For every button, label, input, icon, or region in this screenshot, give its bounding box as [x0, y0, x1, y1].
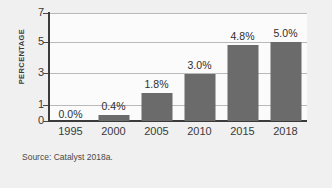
- y-tick-label-1: 1: [26, 99, 44, 110]
- y-tick-mark-5: [43, 42, 48, 43]
- y-tick-label-3: 3: [26, 67, 44, 78]
- y-tick-label-5: 5: [26, 36, 44, 47]
- bar-2015[interactable]: [227, 45, 258, 121]
- y-tick-mark-3: [43, 73, 48, 74]
- bar-slot-2000: 0.4%: [92, 13, 135, 121]
- y-tick-mark-0: [43, 121, 48, 122]
- x-label-1995: 1995: [49, 126, 92, 137]
- chart-figure: PERCENTAGE 7 5 3 1 0 0.0% 0.4% 1.8% 3.0%…: [0, 0, 332, 188]
- bar-slot-1995: 0.0%: [49, 13, 92, 121]
- bar-value-1995: 0.0%: [59, 109, 83, 120]
- bar-2010[interactable]: [184, 74, 215, 121]
- bar-value-2015: 4.8%: [231, 31, 255, 42]
- bar-slot-2018: 5.0%: [264, 13, 307, 121]
- bar-2018[interactable]: [270, 42, 301, 121]
- x-label-2000: 2000: [92, 126, 135, 137]
- bar-value-2010: 3.0%: [188, 60, 212, 71]
- bar-value-2018: 5.0%: [274, 28, 298, 39]
- y-tick-mark-7: [43, 13, 48, 14]
- bar-2005[interactable]: [141, 93, 172, 121]
- y-tick-label-0: 0: [26, 115, 44, 126]
- bar-slot-2015: 4.8%: [221, 13, 264, 121]
- x-label-2015: 2015: [221, 126, 264, 137]
- source-note: Source: Catalyst 2018a.: [22, 152, 113, 162]
- bar-value-2005: 1.8%: [145, 79, 169, 90]
- y-tick-label-7: 7: [26, 7, 44, 18]
- x-label-2005: 2005: [135, 126, 178, 137]
- x-label-2010: 2010: [178, 126, 221, 137]
- y-tick-mark-1: [43, 105, 48, 106]
- bar-slot-2010: 3.0%: [178, 13, 221, 121]
- bar-series: 0.0% 0.4% 1.8% 3.0% 4.8% 5.0%: [49, 13, 307, 121]
- bar-slot-2005: 1.8%: [135, 13, 178, 121]
- x-axis-labels: 1995 2000 2005 2010 2015 2018: [49, 126, 307, 142]
- bar-2000[interactable]: [98, 115, 129, 121]
- bar-value-2000: 0.4%: [102, 101, 126, 112]
- x-label-2018: 2018: [264, 126, 307, 137]
